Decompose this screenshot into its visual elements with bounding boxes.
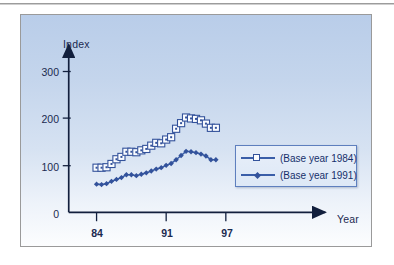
chart-legend[interactable]: (Base year 1984) (Base year 1991) bbox=[235, 145, 357, 187]
y-tick-label-300: 300 bbox=[29, 66, 59, 78]
x-tick-label-91: 91 bbox=[155, 227, 179, 239]
x-tick-label-97: 97 bbox=[215, 227, 239, 239]
x-tick-label-84: 84 bbox=[85, 227, 109, 239]
x-axis-ticks bbox=[97, 212, 226, 221]
y-tick-label-200: 200 bbox=[29, 113, 59, 125]
legend-label-base-1991: (Base year 1991) bbox=[280, 170, 357, 181]
x-axis-label: Year bbox=[337, 213, 359, 225]
y-tick-label-100: 100 bbox=[29, 161, 59, 173]
series-base-1984-markers bbox=[93, 114, 219, 171]
y-axis-label: Index bbox=[63, 38, 90, 50]
filled-diamond-marker-icon bbox=[241, 170, 275, 180]
y-tick-label-0: 0 bbox=[29, 208, 59, 220]
page-top-rule-shadow bbox=[0, 4, 394, 5]
legend-label-base-1984: (Base year 1984) bbox=[280, 153, 357, 164]
legend-item-base-1984[interactable]: (Base year 1984) bbox=[241, 150, 357, 166]
legend-item-base-1991[interactable]: (Base year 1991) bbox=[241, 167, 357, 183]
figure-panel: Index Year 300 200 100 0 84 91 97 (Base … bbox=[20, 14, 372, 247]
open-square-marker-icon bbox=[241, 153, 275, 163]
